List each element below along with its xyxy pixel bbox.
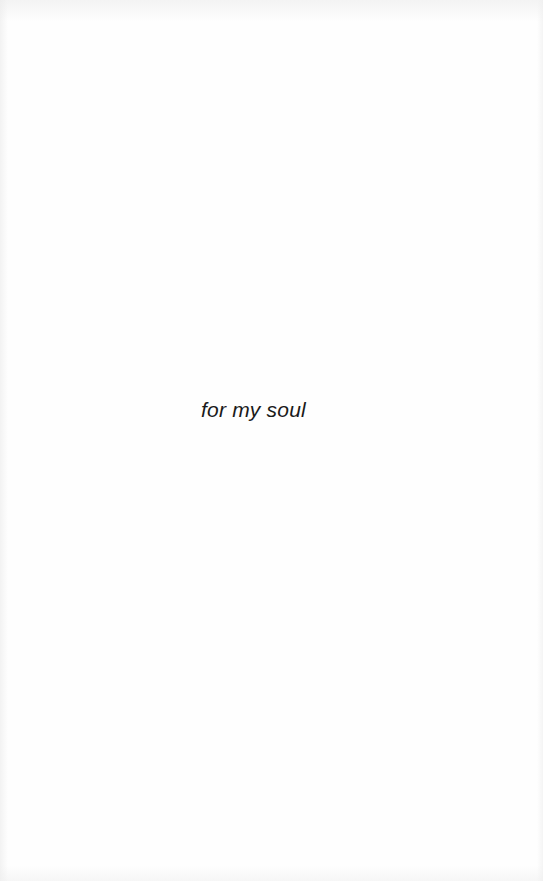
book-page: for my soul xyxy=(0,0,543,881)
page-edge-shadow-top xyxy=(0,0,543,22)
dedication-text: for my soul xyxy=(201,397,306,423)
page-edge-shadow-left xyxy=(0,0,8,881)
page-edge-shadow-bottom xyxy=(0,865,543,881)
page-edge-shadow-right xyxy=(537,0,543,881)
